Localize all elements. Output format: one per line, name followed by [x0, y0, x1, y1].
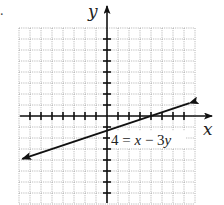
x-axis-label: x: [203, 119, 213, 139]
y-axis-label: y: [87, 1, 98, 21]
coordinate-graph: . x y 4 = x − 3y: [0, 0, 224, 205]
equation-label: 4 = x − 3y: [111, 132, 172, 148]
item-marker: .: [0, 3, 4, 18]
